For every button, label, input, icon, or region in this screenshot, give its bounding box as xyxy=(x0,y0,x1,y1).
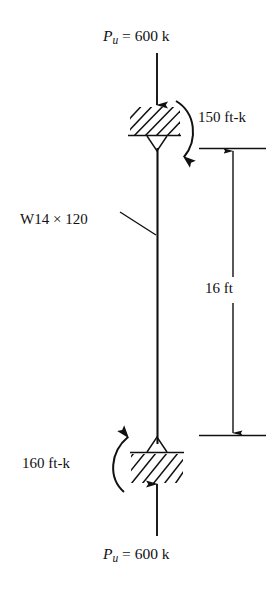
diagram-canvas xyxy=(0,0,278,590)
top-load-label: Pu = 600 k xyxy=(103,28,170,47)
bottom-moment-label: 160 ft-k xyxy=(22,456,70,471)
top-load-equals: = xyxy=(122,27,131,44)
top-moment-arrow xyxy=(176,101,193,157)
bottom-load-label: Pu = 600 k xyxy=(103,546,170,565)
member-designation: W14 xyxy=(20,211,49,227)
member-label: W14 × 120 xyxy=(20,212,88,227)
bottom-load-equals: = xyxy=(122,545,131,562)
bottom-moment-unit: ft-k xyxy=(48,455,70,471)
dimension-label: 16 ft xyxy=(205,281,233,296)
member-leader-line xyxy=(120,212,156,235)
bottom-load-unit: k xyxy=(162,545,170,562)
bottom-moment-arrow xyxy=(113,437,128,492)
bottom-moment-value: 160 xyxy=(22,455,45,471)
bottom-support-hatching xyxy=(112,453,186,484)
top-moment-unit: ft-k xyxy=(224,109,246,125)
top-moment-value: 150 xyxy=(198,109,221,125)
bottom-load-value: 600 xyxy=(135,545,158,562)
dimension-value: 16 xyxy=(205,280,220,296)
member-weight: 120 xyxy=(65,211,88,227)
column-free-body-diagram: Pu = 600 k 150 ft-k W14 × 120 16 ft 160 … xyxy=(0,0,278,590)
top-support-hatching xyxy=(124,101,198,139)
top-load-value: 600 xyxy=(135,27,158,44)
dimension-unit: ft xyxy=(224,280,233,296)
top-pin-support xyxy=(124,101,198,151)
bottom-pin-support xyxy=(112,437,186,484)
top-load-unit: k xyxy=(162,27,170,44)
top-moment-label: 150 ft-k xyxy=(198,110,246,125)
